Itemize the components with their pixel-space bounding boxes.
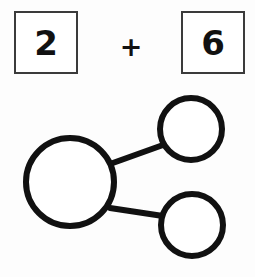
- number-bond-svg: [0, 88, 255, 277]
- addend-2-value: 6: [201, 26, 225, 60]
- connector-line-bottom: [110, 208, 163, 216]
- addend-2-box[interactable]: 6: [181, 11, 245, 74]
- plus-operator: +: [117, 30, 145, 62]
- addend-1-value: 2: [34, 26, 58, 60]
- worksheet-canvas: 2 + 6: [0, 0, 255, 277]
- part-circle-bottom[interactable]: [161, 194, 223, 256]
- connector-line-top: [110, 145, 163, 164]
- whole-circle[interactable]: [26, 138, 114, 226]
- part-circle-top[interactable]: [160, 98, 222, 160]
- addend-1-box[interactable]: 2: [14, 11, 78, 74]
- number-bond-diagram: [0, 88, 255, 277]
